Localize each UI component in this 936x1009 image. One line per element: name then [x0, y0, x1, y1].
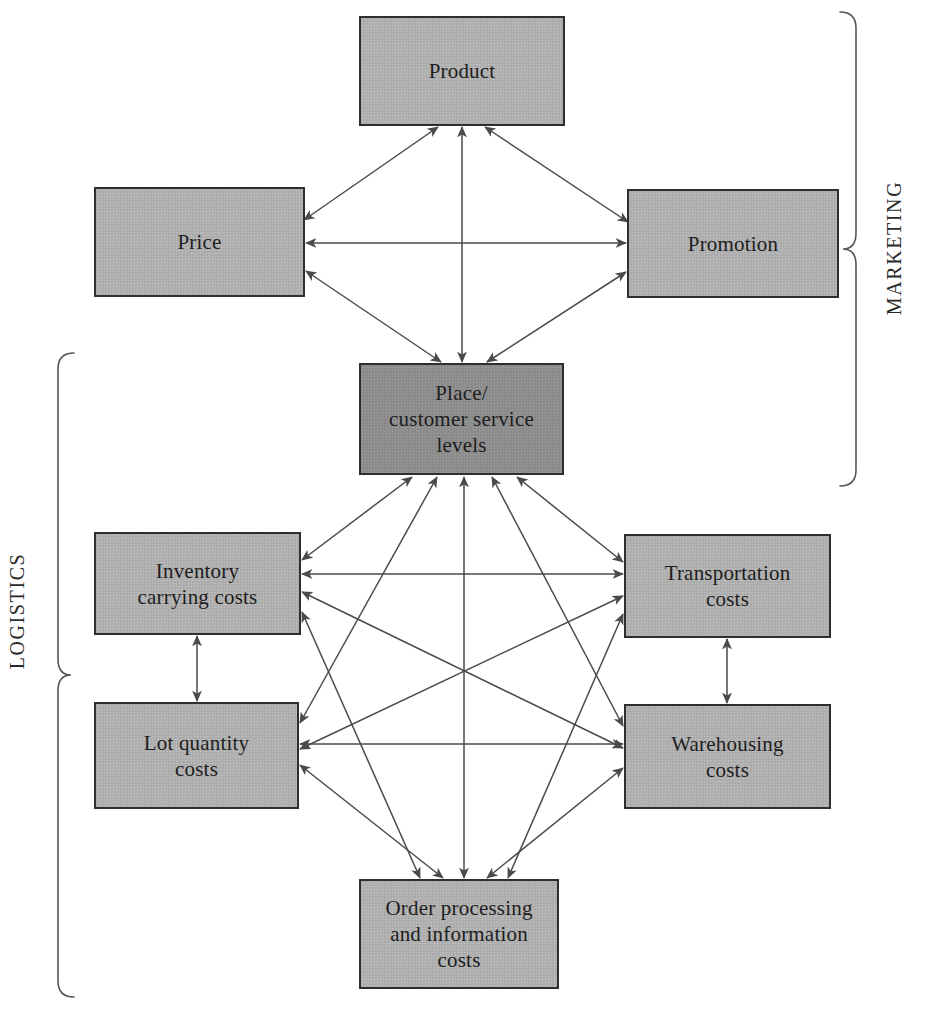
- edge-promotion-product: [485, 127, 628, 222]
- group-brace: [840, 12, 856, 486]
- trade-off-diagram: ProductPricePromotionPlace/customer serv…: [0, 0, 936, 1009]
- node-label: costs: [706, 758, 749, 782]
- node-label: Inventory: [156, 559, 240, 583]
- node-label: and information: [390, 922, 528, 946]
- node-orderprocessing[interactable]: Order processingand informationcosts: [360, 880, 558, 988]
- node-label: costs: [175, 757, 218, 781]
- node-label: Product: [429, 59, 496, 83]
- edge-promotion-place: [487, 272, 626, 362]
- group-logistics: LOGISTICS: [6, 353, 74, 997]
- node-lotquantity[interactable]: Lot quantitycosts: [95, 703, 298, 808]
- node-label: costs: [706, 587, 749, 611]
- nodes-layer: ProductPricePromotionPlace/customer serv…: [95, 17, 838, 988]
- node-warehousing[interactable]: Warehousingcosts: [625, 705, 830, 808]
- node-promotion[interactable]: Promotion: [628, 190, 838, 297]
- node-box: [95, 703, 298, 808]
- node-price[interactable]: Price: [95, 188, 304, 296]
- edge-inventory-place: [302, 477, 412, 560]
- node-label: Place/: [435, 381, 488, 405]
- edge-warehousing-place: [492, 477, 623, 726]
- node-label: Transportation: [665, 561, 791, 585]
- node-label: Warehousing: [671, 732, 784, 756]
- node-label: Order processing: [385, 896, 533, 920]
- node-box: [625, 705, 830, 808]
- edge-warehousing-orderprocessing: [487, 768, 623, 878]
- group-brace: [58, 353, 74, 997]
- edge-transportation-orderprocessing: [508, 614, 623, 878]
- group-label: MARKETING: [883, 181, 905, 315]
- edge-price-product: [304, 127, 438, 220]
- edge-transportation-place: [517, 477, 623, 562]
- edge-price-place: [306, 271, 441, 362]
- node-product[interactable]: Product: [360, 17, 564, 125]
- node-label: levels: [436, 433, 486, 457]
- node-label: customer service: [389, 407, 534, 431]
- node-label: carrying costs: [137, 585, 257, 609]
- node-label: Promotion: [688, 232, 779, 256]
- group-label: LOGISTICS: [6, 553, 28, 670]
- node-box: [95, 533, 300, 634]
- edge-inventory-orderprocessing: [302, 612, 420, 878]
- node-place[interactable]: Place/customer servicelevels: [360, 364, 563, 474]
- node-label: Lot quantity: [144, 731, 250, 755]
- node-box: [625, 535, 830, 637]
- node-transportation[interactable]: Transportationcosts: [625, 535, 830, 637]
- edge-lotquantity-place: [300, 477, 437, 723]
- groups-layer: MARKETINGLOGISTICS: [6, 12, 905, 997]
- group-marketing: MARKETING: [840, 12, 905, 486]
- node-label: costs: [438, 948, 481, 972]
- node-label: Price: [177, 230, 221, 254]
- edge-lotquantity-orderprocessing: [300, 765, 443, 878]
- node-inventory[interactable]: Inventorycarrying costs: [95, 533, 300, 634]
